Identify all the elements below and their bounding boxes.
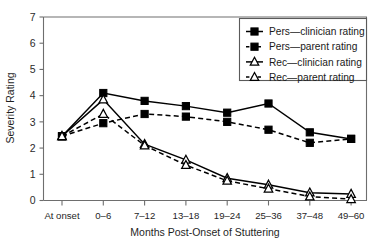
data-point-marker [182, 113, 189, 120]
x-category-label: 19–24 [214, 210, 241, 221]
y-tick-label: 1 [30, 168, 36, 180]
y-axis-title: Severity Rating [4, 72, 16, 143]
x-category-label: 7–12 [134, 210, 155, 221]
legend-entry-label: Pers—parent rating [269, 41, 358, 52]
x-axis-category-labels: At onset0–67–1213–1819–2425–3637–4849–60 [44, 210, 364, 221]
data-series-layer [58, 89, 356, 202]
x-category-label: At onset [44, 210, 80, 221]
y-tick-label: 2 [30, 142, 36, 154]
data-point-marker [100, 120, 107, 127]
data-point-marker [99, 109, 107, 117]
y-tick-label: 0 [30, 194, 36, 206]
chart-legend: Pers—clinician ratingPers—parent ratingR… [240, 19, 367, 83]
data-point-marker [224, 109, 231, 116]
data-point-marker [348, 135, 355, 142]
data-point-marker [265, 100, 272, 107]
severity-rating-line-chart: 01234567 At onset0–67–1213–1819–2425–363… [0, 0, 380, 252]
legend-entry-label: Pers—clinician rating [269, 26, 365, 37]
y-tick-label: 6 [30, 37, 36, 49]
legend-marker-sample [251, 28, 258, 35]
data-point-marker [182, 103, 189, 110]
x-category-label: 13–18 [173, 210, 200, 221]
x-category-label: 25–36 [255, 210, 282, 221]
chart-canvas: 01234567 At onset0–67–1213–1819–2425–363… [0, 0, 380, 252]
x-category-label: 0–6 [95, 210, 111, 221]
y-tick-label: 4 [30, 89, 36, 101]
y-tick-label: 5 [30, 63, 36, 75]
data-point-marker [141, 97, 148, 104]
y-tick-label: 7 [30, 11, 36, 23]
data-point-marker [141, 110, 148, 117]
legend-entry-label: Rec—parent rating [269, 72, 355, 83]
legend-marker-sample [251, 43, 258, 50]
data-point-marker [306, 129, 313, 136]
legend-entry-label: Rec—clinician rating [269, 57, 362, 68]
x-category-label: 37–48 [296, 210, 323, 221]
data-point-marker [224, 118, 231, 125]
y-tick-label: 3 [30, 116, 36, 128]
x-category-label: 49–60 [338, 210, 365, 221]
x-axis-title: Months Post-Onset of Stuttering [130, 226, 280, 238]
data-point-marker [306, 139, 313, 146]
data-point-marker [265, 126, 272, 133]
y-axis-ticks: 01234567 [30, 11, 44, 207]
x-axis-ticks [62, 201, 351, 206]
